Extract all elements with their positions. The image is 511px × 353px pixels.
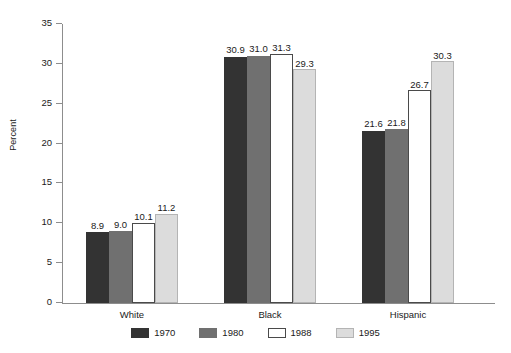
y-axis-line bbox=[62, 24, 63, 303]
bar-value-label: 21.8 bbox=[387, 118, 406, 128]
bar: 21.8 bbox=[385, 129, 408, 303]
x-axis-category-label: White bbox=[120, 309, 144, 320]
legend-label: 1970 bbox=[154, 328, 175, 338]
bar: 8.9 bbox=[86, 232, 109, 303]
x-axis-category-label: Hispanic bbox=[390, 309, 426, 320]
legend-label: 1988 bbox=[291, 328, 312, 338]
bar-value-label: 21.6 bbox=[364, 119, 383, 129]
bar: 11.2 bbox=[155, 214, 178, 303]
y-axis-tick: 5 bbox=[56, 262, 62, 263]
bar-group: 30.931.031.329.3 bbox=[224, 24, 316, 303]
bar: 30.9 bbox=[224, 57, 247, 303]
legend-item: 1988 bbox=[268, 328, 312, 338]
bar: 30.3 bbox=[431, 61, 454, 303]
bar: 21.6 bbox=[362, 131, 385, 303]
bar-value-label: 30.3 bbox=[433, 51, 452, 61]
bar: 31.3 bbox=[270, 54, 293, 304]
legend-swatch bbox=[336, 328, 354, 338]
x-axis-line bbox=[62, 303, 495, 304]
y-axis-tick-label: 0 bbox=[47, 296, 52, 307]
bar-value-label: 9.0 bbox=[114, 220, 127, 230]
y-axis-tick: 25 bbox=[56, 103, 62, 104]
bar: 9.0 bbox=[109, 231, 132, 303]
bar-value-label: 8.9 bbox=[91, 221, 104, 231]
y-axis-tick-label: 10 bbox=[41, 216, 52, 227]
bar-chart: Percent 05101520253035 8.99.010.111.230.… bbox=[0, 0, 511, 353]
y-axis-tick-label: 35 bbox=[41, 17, 52, 28]
legend-item: 1980 bbox=[199, 328, 243, 338]
y-axis-tick: 15 bbox=[56, 182, 62, 183]
bar-value-label: 30.9 bbox=[226, 45, 245, 55]
legend-swatch bbox=[199, 328, 217, 338]
y-axis-tick-label: 25 bbox=[41, 97, 52, 108]
bar-value-label: 31.0 bbox=[249, 44, 268, 54]
y-axis-tick-label: 30 bbox=[41, 57, 52, 68]
bar: 10.1 bbox=[132, 223, 155, 304]
bar: 29.3 bbox=[293, 69, 316, 303]
bar: 26.7 bbox=[408, 90, 431, 303]
y-axis-label: Percent bbox=[8, 100, 18, 170]
legend-label: 1980 bbox=[222, 328, 243, 338]
plot-area: 05101520253035 8.99.010.111.230.931.031.… bbox=[62, 24, 495, 303]
y-axis-tick: 10 bbox=[56, 222, 62, 223]
y-axis-tick: 20 bbox=[56, 143, 62, 144]
legend-label: 1995 bbox=[359, 328, 380, 338]
bar-value-label: 11.2 bbox=[158, 203, 176, 213]
legend-item: 1995 bbox=[336, 328, 380, 338]
bar-value-label: 31.3 bbox=[272, 43, 291, 53]
bar-value-label: 26.7 bbox=[410, 80, 429, 90]
legend-swatch bbox=[268, 328, 286, 338]
bar-value-label: 29.3 bbox=[295, 59, 314, 69]
legend-item: 1970 bbox=[131, 328, 175, 338]
y-axis-tick-label: 20 bbox=[41, 137, 52, 148]
bar-group: 8.99.010.111.2 bbox=[86, 24, 178, 303]
y-axis-tick: 0 bbox=[56, 302, 62, 303]
y-axis-tick-label: 5 bbox=[47, 256, 52, 267]
chart-legend: 1970198019881995 bbox=[0, 328, 511, 338]
x-axis-category-label: Black bbox=[258, 309, 281, 320]
bar-group: 21.621.826.730.3 bbox=[362, 24, 454, 303]
legend-swatch bbox=[131, 328, 149, 338]
y-axis-tick: 35 bbox=[56, 23, 62, 24]
y-axis-tick-label: 15 bbox=[41, 176, 52, 187]
y-axis-tick: 30 bbox=[56, 63, 62, 64]
bar-value-label: 10.1 bbox=[134, 212, 153, 222]
bar: 31.0 bbox=[247, 56, 270, 303]
